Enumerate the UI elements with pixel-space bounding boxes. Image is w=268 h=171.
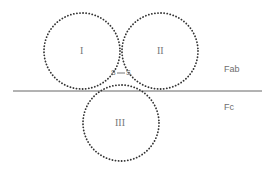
region-label-fab: Fab xyxy=(224,65,240,74)
bond-sulfur-right: S xyxy=(126,69,131,76)
bond-sulfur-left: S xyxy=(111,69,116,76)
label-domain-i: I xyxy=(80,46,83,56)
label-domain-ii: II xyxy=(157,46,164,56)
region-label-fc: Fc xyxy=(224,103,234,112)
diagram-canvas xyxy=(0,0,268,171)
label-domain-iii: III xyxy=(115,118,125,128)
